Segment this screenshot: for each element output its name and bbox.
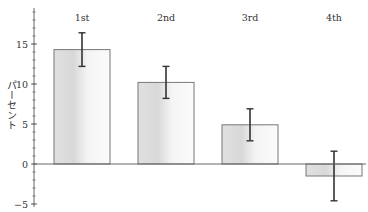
y-tick-label: −5	[14, 199, 28, 210]
y-axis: −5051015	[14, 8, 37, 210]
category-label-3rd: 3rd	[242, 12, 259, 23]
category-label-4th: 4th	[326, 12, 342, 23]
bar-chart: −5051015 1st2nd3rd4th	[0, 0, 368, 212]
y-tick-label: 0	[22, 159, 28, 170]
y-tick-label: 5	[22, 119, 28, 130]
category-labels: 1st2nd3rd4th	[75, 12, 342, 23]
category-label-2nd: 2nd	[157, 12, 175, 23]
y-tick-label: 15	[16, 39, 28, 50]
category-label-1st: 1st	[75, 12, 90, 23]
bars	[34, 33, 366, 201]
y-tick-label: 10	[16, 79, 28, 90]
